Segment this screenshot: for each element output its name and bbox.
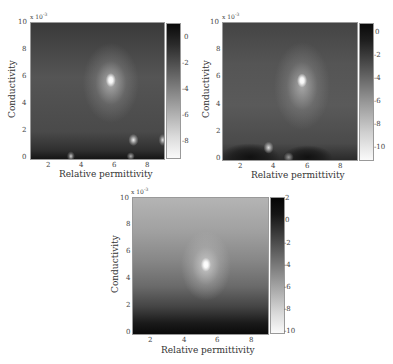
y-tick: 8: [22, 46, 26, 53]
colorbar-tick: -2: [374, 52, 381, 59]
heatmap-plot-1: [30, 22, 165, 160]
heatmap-plot-3: [132, 197, 269, 335]
x-tick: 2: [46, 162, 50, 169]
y-multiplier: x 10-3: [222, 12, 239, 20]
y-tick: 2: [22, 127, 26, 134]
colorbar-3: [270, 197, 285, 334]
x-tick: 6: [112, 162, 116, 169]
y-tick: 4: [22, 100, 26, 107]
y-multiplier: x 10-3: [30, 12, 47, 20]
x-axis-label: Relative permittivity: [161, 345, 255, 355]
y-multiplier: x 10-3: [131, 187, 148, 195]
colorbar-tick: -10: [284, 328, 295, 335]
colorbar-tick: 0: [375, 29, 379, 36]
x-tick: 4: [79, 162, 83, 169]
y-axis-label: Conductivity: [201, 60, 211, 118]
colorbar-1: [166, 23, 181, 159]
x-tick: 4: [182, 337, 186, 344]
y-tick: 2: [216, 128, 220, 135]
x-tick: 8: [338, 163, 342, 170]
colorbar-2: [359, 23, 374, 161]
y-tick: 10: [210, 19, 219, 26]
x-tick: 2: [238, 163, 242, 170]
colorbar-tick: 2: [285, 195, 289, 202]
x-axis-label: Relative permittivity: [251, 170, 345, 180]
y-tick: 0: [22, 154, 26, 161]
colorbar-tick: -8: [374, 121, 381, 128]
colorbar-tick: 0: [184, 34, 188, 41]
heatmap-plot-2: [222, 22, 358, 161]
y-tick: 8: [216, 46, 220, 53]
y-tick: 10: [120, 195, 129, 202]
y-axis-label: Conductivity: [7, 60, 17, 118]
x-tick: 8: [145, 162, 149, 169]
y-tick: 2: [126, 302, 130, 309]
colorbar-tick: -4: [182, 86, 189, 93]
y-tick: 6: [216, 73, 220, 80]
y-tick: 4: [216, 101, 220, 108]
colorbar-tick: -6: [374, 98, 381, 105]
colorbar-tick: -2: [284, 240, 291, 247]
colorbar-tick: -6: [284, 284, 291, 291]
x-tick: 8: [249, 337, 253, 344]
y-tick: 4: [126, 275, 130, 282]
y-tick: 0: [126, 329, 130, 336]
y-tick: 10: [18, 19, 27, 26]
colorbar-tick: -8: [182, 138, 189, 145]
x-tick: 6: [215, 337, 219, 344]
colorbar-tick: -6: [182, 112, 189, 119]
colorbar-tick: 0: [285, 217, 289, 224]
y-axis-label: Conductivity: [110, 235, 120, 293]
y-tick: 6: [22, 73, 26, 80]
x-tick: 2: [148, 337, 152, 344]
colorbar-tick: -2: [182, 60, 189, 67]
colorbar-tick: -8: [284, 306, 291, 313]
colorbar-tick: -4: [284, 262, 291, 269]
x-tick: 6: [305, 163, 309, 170]
y-tick: 6: [126, 248, 130, 255]
y-tick: 0: [216, 155, 220, 162]
x-axis-label: Relative permittivity: [59, 169, 153, 179]
y-tick: 8: [126, 221, 130, 228]
colorbar-tick: -10: [374, 144, 385, 151]
colorbar-tick: -4: [374, 75, 381, 82]
x-tick: 4: [271, 163, 275, 170]
